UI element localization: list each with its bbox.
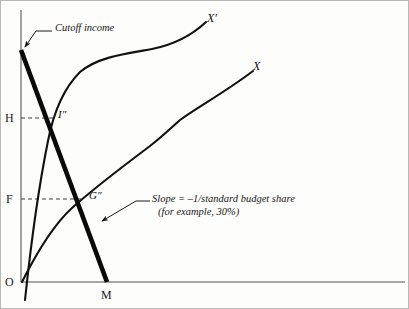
x-tick-label-m: M [101,289,112,301]
curve-x-prime [25,22,206,300]
annotation-cutoff-income: Cutoff income [55,21,114,34]
curve-label-x: X [253,60,260,72]
point-label-g-double-prime: G″ [89,190,102,201]
curve-label-x-prime: X′ [207,12,217,24]
figure-container: H F O M X′ X I″ G″ Cutoff income Slope =… [0,0,409,309]
point-label-i-double-prime: I″ [58,109,66,120]
origin-label: O [5,276,14,288]
cutoff-income-arrow [25,31,36,47]
annotation-slope-line2: (for example, 30%) [152,205,295,218]
curve-x [22,71,253,282]
y-tick-label-h: H [5,112,14,124]
y-tick-label-f: F [6,193,13,205]
chart-canvas [0,0,409,309]
budget-constraint-line [21,50,107,282]
annotation-slope-line1: Slope = –1/standard budget share [152,193,295,204]
slope-arrow [102,201,136,221]
annotation-slope: Slope = –1/standard budget share (for ex… [152,192,295,218]
